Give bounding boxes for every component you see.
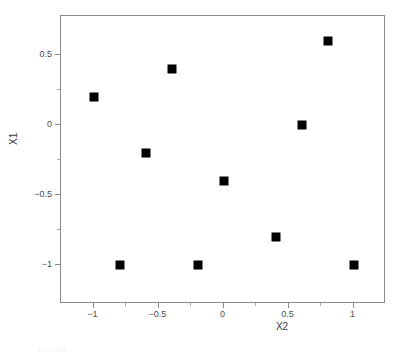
x-axis-tick [158,303,159,308]
x-axis-minor-tick [255,303,256,306]
x-axis-minor-tick [125,303,126,306]
y-axis-tick-label: 0.5 [39,49,52,59]
y-axis-minor-tick [57,229,60,230]
x-axis-title: X2 [0,321,401,332]
x-axis-tick [288,303,289,308]
x-axis-tick-label: 0 [220,309,225,319]
x-axis-tick [223,303,224,308]
data-point [167,65,176,74]
data-point [89,93,98,102]
x-axis-tick-label: 1 [350,309,355,319]
data-point-layer [61,16,384,302]
y-axis-tick-label: 0 [47,119,52,129]
data-point [141,149,150,158]
x-axis-tick-label: −1 [87,309,97,319]
y-axis-minor-tick [57,159,60,160]
x-axis-tick-label: 0.5 [281,309,294,319]
data-point [349,260,358,269]
x-axis-tick-label: −0.5 [149,309,167,319]
scatter-plot-figure: −1−0.500.510.50−0.5−1 X2 X1 FIGURE [0,0,401,354]
data-point [219,176,228,185]
x-axis-tick [353,303,354,308]
y-axis-tick [55,194,60,195]
x-axis-minor-tick [320,303,321,306]
y-axis-tick-label: −0.5 [34,189,52,199]
data-point [193,260,202,269]
plot-area [60,15,385,303]
y-axis-title: X1 [8,133,19,145]
x-axis-tick [93,303,94,308]
data-point [271,232,280,241]
data-point [323,37,332,46]
x-axis-minor-tick [190,303,191,306]
y-axis-minor-tick [57,89,60,90]
y-axis-tick [55,124,60,125]
y-axis-tick-label: −1 [42,259,52,269]
y-axis-tick [55,264,60,265]
figure-caption: FIGURE [38,345,68,354]
x-axis-title-text: X2 [276,321,288,332]
data-point [115,260,124,269]
data-point [297,121,306,130]
y-axis-tick [55,54,60,55]
